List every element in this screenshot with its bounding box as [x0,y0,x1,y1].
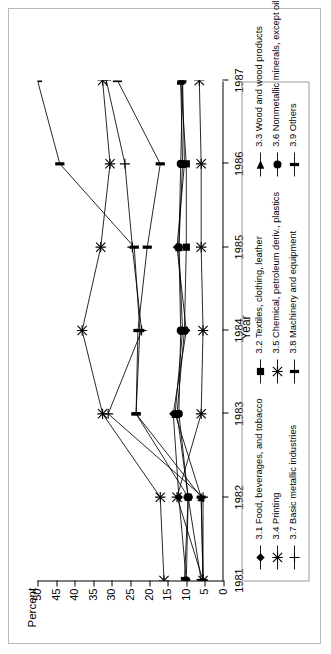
data-point-star [195,241,205,251]
legend-label: 3.9 Others [287,103,297,146]
data-point-star [95,241,105,251]
legend-marker-triangle [254,151,266,177]
data-point-star [195,408,205,418]
y-axis-tick [149,580,150,586]
y-axis-tick [111,580,112,586]
series-3-7 [101,80,208,580]
data-point-star [194,80,204,85]
data-point-star [76,325,86,335]
figure-frame: Percent 05101520253035404550198119821983… [8,8,321,644]
data-point-star [104,158,114,168]
y-axis-tick-label: 20 [143,588,154,622]
y-axis-tick [93,580,94,586]
data-point-triangle [256,160,264,168]
y-axis-tick [56,580,57,586]
y-axis-tick-label: 15 [161,588,172,622]
legend-entry[interactable]: 3.5 Chemical, petroleum deriv., plastics [269,191,281,384]
x-axis-tick [222,79,228,80]
legend-swatch [286,358,298,384]
data-point-bar [129,245,138,248]
legend-swatch [269,151,281,177]
y-axis-tick-label: 35 [87,588,98,622]
legend-label: 3.1 Food, beverages, and tobacco [253,398,263,539]
data-point-square [256,367,263,374]
y-axis-tick [37,580,38,586]
data-point-diamond [256,553,264,561]
x-axis-tick [222,246,228,247]
y-axis-tick [223,580,224,586]
legend-marker-star [271,358,283,384]
data-point-bar [112,80,121,82]
data-point-bar [131,412,140,415]
series-3-8 [112,80,207,580]
y-axis-tick [204,580,205,586]
data-point-bar [142,245,151,248]
data-point-star [195,158,205,168]
legend-marker-bar [288,358,300,384]
chart-legend: 3.1 Food, beverages, and tobacco3.4 Prin… [241,81,309,581]
data-point-plus [289,552,299,562]
y-axis-tick [167,580,168,586]
legend-entry[interactable]: 3.1 Food, beverages, and tobacco [252,398,264,570]
data-point-bar [37,80,42,82]
legend-swatch [269,358,281,384]
legend-marker-plus [288,544,300,570]
y-axis-tick-label: 10 [180,588,191,622]
data-point-star [155,491,165,501]
legend-label: 3.3 Wood and wood products [253,26,263,147]
legend-label: 3.6 Nonmetallic minerals, except oil pro… [270,0,280,146]
data-point-star [272,552,282,562]
legend-column-1: 3.1 Food, beverages, and tobacco3.4 Prin… [252,398,298,570]
data-point-star [272,366,282,376]
legend-entry[interactable]: 3.9 Others [286,0,298,177]
legend-marker-diamond [254,544,266,570]
x-axis-tick [222,329,228,330]
legend-label: 3.4 Printing [270,492,280,539]
legend-swatch [286,151,298,177]
y-axis-tick [186,580,187,586]
legend-marker-star [271,544,283,570]
legend-column-3: 3.3 Wood and wood products3.6 Nonmetalli… [252,0,298,177]
legend-marker-bar [288,151,300,177]
legend-swatch [252,358,264,384]
data-point-bar [289,163,298,166]
series-canvas [37,80,223,580]
y-axis-tick-label: 50 [31,588,42,622]
data-point-star [171,491,181,501]
data-point-plus [119,158,129,168]
legend-label: 3.2 Textiles, clothing, leather [253,236,263,353]
y-axis-tick-label: 30 [105,588,116,622]
y-axis-tick [74,580,75,586]
data-point-circle [273,160,281,168]
legend-label: 3.5 Chemical, petroleum deriv., plastics [270,191,280,353]
legend-entry[interactable]: 3.6 Nonmetallic minerals, except oil pro… [269,0,281,177]
data-point-star [158,575,168,580]
legend-label: 3.8 Machinery and equipment [287,230,297,353]
legend-entry[interactable]: 3.3 Wood and wood products [252,0,264,177]
x-axis-tick [222,412,228,413]
legend-entry[interactable]: 3.7 Basic metallic industries [286,398,298,570]
legend-entry[interactable]: 3.2 Textiles, clothing, leather [252,191,264,384]
y-axis-tick-label: 5 [198,588,209,622]
data-point-bar [289,369,298,372]
legend-entry[interactable]: 3.8 Machinery and equipment [286,191,298,384]
legend-swatch [252,544,264,570]
legend-marker-square [254,358,266,384]
legend-marker-circle [271,151,283,177]
y-axis-tick-label: 45 [50,588,61,622]
x-axis-tick [222,162,228,163]
plot-area: 0510152025303540455019811982198319841985… [37,81,223,581]
legend-swatch [269,544,281,570]
legend-entry[interactable]: 3.4 Printing [269,398,281,570]
y-axis-tick-label: 40 [68,588,79,622]
data-point-star [197,325,207,335]
y-axis-tick-label: 0 [217,588,228,622]
data-point-square [182,243,189,250]
legend-label: 3.7 Basic metallic industries [287,424,297,539]
x-axis-tick [222,496,228,497]
y-axis-tick [130,580,131,586]
legend-swatch [252,151,264,177]
legend-swatch [286,544,298,570]
rotated-figure: Percent 05101520253035404550198119821983… [9,9,322,645]
legend-column-2: 3.2 Textiles, clothing, leather3.5 Chemi… [252,191,298,384]
